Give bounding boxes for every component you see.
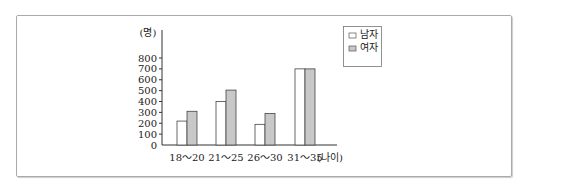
y-tick-label: 400 xyxy=(138,96,157,107)
x-axis-unit-label: (나이) xyxy=(317,152,343,163)
x-tick-label: 18～20 xyxy=(169,152,204,163)
y-axis-unit-label: (명) xyxy=(140,27,157,38)
x-tick-label: 26～30 xyxy=(247,152,282,163)
y-tick-label: 100 xyxy=(138,129,157,140)
y-tick-label: 200 xyxy=(138,118,157,129)
y-tick-label: 600 xyxy=(138,74,157,85)
y-tick-label: 300 xyxy=(138,107,157,118)
y-tick-label: 800 xyxy=(138,53,157,64)
legend-label-male: 남자 xyxy=(360,29,378,40)
legend-label-female: 여자 xyxy=(360,42,378,53)
y-tick-label: 500 xyxy=(138,85,157,96)
y-tick-label: 700 xyxy=(138,63,157,74)
legend-swatch-male xyxy=(349,33,356,38)
bar-female xyxy=(265,113,275,145)
bar-male xyxy=(255,124,265,145)
bar-female xyxy=(226,90,236,145)
bar-male xyxy=(295,69,305,145)
bar-chart: (명)010020030040050060070080018～2021～2526… xyxy=(0,0,562,185)
x-tick-label: 21～25 xyxy=(208,152,243,163)
bar-female xyxy=(187,111,197,145)
bar-female xyxy=(305,69,315,145)
bar-male xyxy=(177,121,187,145)
bar-male xyxy=(216,102,226,146)
legend-swatch-female xyxy=(349,46,356,51)
y-tick-label: 0 xyxy=(151,140,157,151)
